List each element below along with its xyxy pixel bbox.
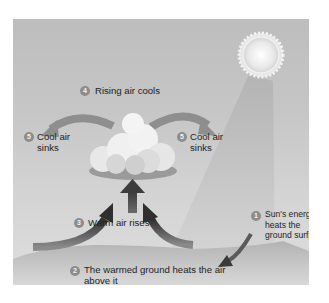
step-badge-1: 1: [251, 211, 261, 221]
step-label-5-left-line1: Cool air: [37, 131, 70, 142]
step-label-1-line1: Sun's energy: [265, 209, 309, 220]
step-badge-4: 4: [80, 86, 90, 96]
step-label-5-left-line2: sinks: [37, 142, 59, 153]
left-sinking-arrow: [51, 118, 113, 129]
right-sinking-arrow: [151, 116, 208, 127]
step-label-1-line2: heats the: [265, 220, 300, 231]
step-label-5-right-line1: Cool air: [190, 131, 223, 142]
step-badge-3: 3: [74, 218, 84, 228]
step-label-4: Rising air cools: [95, 85, 160, 96]
step-badge-2: 2: [70, 266, 80, 276]
step-label-2-line2: above it: [84, 275, 118, 285]
step-label-1-line3: ground surface: [265, 230, 309, 241]
step-badge-5-left: 5: [24, 132, 34, 142]
step-badge-5-right: 5: [177, 132, 187, 142]
rising-arrow-center: [120, 179, 145, 213]
step-label-2-line1: The warmed ground heats the air: [84, 264, 225, 275]
step-label-5-right-line2: sinks: [190, 142, 212, 153]
step-label-3: Warm air rises: [88, 217, 149, 228]
sun-icon: [239, 33, 283, 77]
convection-diagram: 4 Rising air cools 5 Cool air sinks 5 Co…: [13, 19, 309, 285]
